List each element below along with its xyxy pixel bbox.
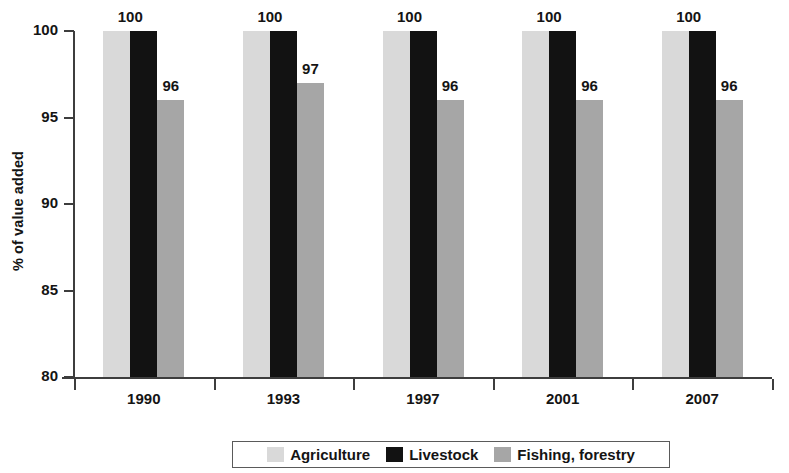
- legend-swatch-icon: [386, 447, 403, 462]
- plot-area: 1009610097100961009610096: [0, 0, 789, 473]
- bar-value-label: 100: [526, 8, 572, 25]
- legend-label: Agriculture: [290, 446, 370, 463]
- bar-value-label: 97: [287, 60, 333, 77]
- bar: [103, 31, 130, 377]
- legend-label: Livestock: [409, 446, 478, 463]
- legend-item: Livestock: [386, 446, 478, 463]
- bar: [243, 31, 270, 377]
- bar: [270, 31, 297, 377]
- bar-value-label: 100: [247, 8, 293, 25]
- bar: [157, 100, 184, 377]
- bar: [522, 31, 549, 377]
- bar: [576, 100, 603, 377]
- bar: [437, 100, 464, 377]
- bar: [662, 31, 689, 377]
- legend-item: Agriculture: [267, 446, 370, 463]
- legend-item: Fishing, forestry: [494, 446, 635, 463]
- bar-value-label: 100: [387, 8, 433, 25]
- bar-value-label: 96: [567, 77, 613, 94]
- legend-swatch-icon: [494, 447, 511, 462]
- bar: [297, 83, 324, 377]
- bar-value-label: 96: [427, 77, 473, 94]
- bar-value-label: 96: [148, 77, 194, 94]
- legend-swatch-icon: [267, 447, 284, 462]
- bar: [716, 100, 743, 377]
- bar-value-label: 100: [666, 8, 712, 25]
- bar-value-label: 96: [706, 77, 752, 94]
- bar: [383, 31, 410, 377]
- bar-chart: % of value added 80859095100 19901993199…: [0, 0, 789, 473]
- legend-label: Fishing, forestry: [517, 446, 635, 463]
- bar-value-label: 100: [107, 8, 153, 25]
- chart-legend: AgricultureLivestockFishing, forestry: [232, 441, 670, 468]
